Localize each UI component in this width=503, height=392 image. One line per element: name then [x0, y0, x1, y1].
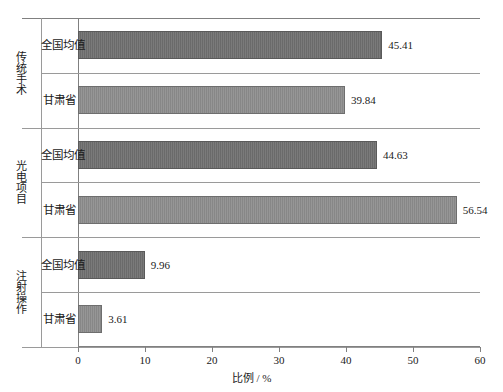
bar: [78, 305, 102, 333]
group-axis-label: 传统手术: [14, 18, 28, 128]
row-separator: [41, 292, 480, 293]
bar: [78, 196, 457, 224]
row-separator: [41, 73, 480, 74]
x-tick-label: 40: [326, 354, 366, 366]
x-tick-label: 0: [58, 354, 98, 366]
bar-value-label: 9.96: [151, 251, 170, 279]
x-tick-label: 50: [393, 354, 433, 366]
group-separator: [22, 237, 480, 238]
x-tick: [212, 347, 213, 352]
row-axis-label: 全国均值: [41, 141, 76, 169]
row-axis-label: 全国均值: [41, 31, 76, 59]
x-tick: [78, 347, 79, 352]
x-axis-title: 比例 / %: [0, 369, 503, 385]
group-axis-label: 注射操作: [14, 237, 28, 347]
bar-value-label: 44.63: [383, 141, 408, 169]
x-tick: [346, 347, 347, 352]
x-tick: [413, 347, 414, 352]
bar-value-label: 45.41: [388, 31, 413, 59]
x-tick: [145, 347, 146, 352]
bar: [78, 86, 345, 114]
x-tick-label: 30: [259, 354, 299, 366]
bar: [78, 31, 382, 59]
bar: [78, 141, 377, 169]
bar-chart: 传统手术45.41全国均值39.84甘肃省光电项目44.63全国均值56.54甘…: [0, 0, 503, 392]
x-tick: [279, 347, 280, 352]
group-axis-label: 光电项目: [14, 128, 28, 238]
group-separator: [22, 347, 480, 348]
bar-value-label: 56.54: [463, 196, 488, 224]
row-axis-label: 甘肃省: [41, 196, 76, 224]
bar: [78, 251, 145, 279]
bar-value-label: 3.61: [108, 305, 127, 333]
x-tick-label: 20: [192, 354, 232, 366]
row-separator: [41, 182, 480, 183]
group-separator: [22, 128, 480, 129]
bar-value-label: 39.84: [351, 86, 376, 114]
row-axis-label: 全国均值: [41, 251, 76, 279]
row-axis-label: 甘肃省: [41, 305, 76, 333]
x-tick: [480, 347, 481, 352]
x-tick-label: 60: [460, 354, 500, 366]
x-tick-label: 10: [125, 354, 165, 366]
row-axis-label: 甘肃省: [41, 86, 76, 114]
